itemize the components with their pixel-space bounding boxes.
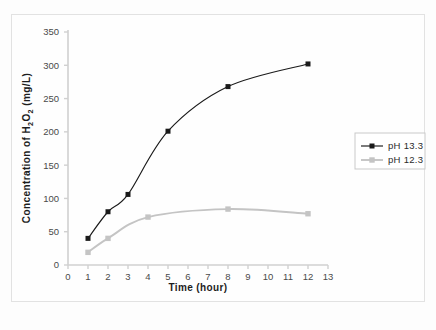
y-tick-label: 250 <box>43 93 59 104</box>
y-tick-label: 100 <box>43 193 59 204</box>
y-tick-label: 150 <box>43 160 59 171</box>
data-point <box>105 236 110 241</box>
data-point <box>145 214 150 219</box>
x-tick-label: 6 <box>185 271 190 282</box>
data-point <box>126 192 131 197</box>
data-point <box>106 209 111 214</box>
x-tick-label: 7 <box>205 271 210 282</box>
y-tick-label: 0 <box>54 259 59 270</box>
x-tick-label: 0 <box>65 271 70 282</box>
data-point <box>166 129 171 134</box>
svg-text:Concentration of H2O2 (mg/L): Concentration of H2O2 (mg/L) <box>21 73 35 223</box>
figure-caption-cropped <box>18 318 248 328</box>
line-chart: 050100150200250300350 012345678910111213… <box>0 0 436 330</box>
data-point <box>225 206 230 211</box>
legend-marker-swatch <box>370 144 375 149</box>
x-tick-label: 5 <box>165 271 170 282</box>
data-point <box>86 236 91 241</box>
data-point <box>226 84 231 89</box>
x-tick-label: 4 <box>145 271 150 282</box>
series-line <box>88 209 308 252</box>
series-1 <box>86 61 311 240</box>
legend-item-label: pH 13.3 <box>388 140 423 151</box>
chart-figure: 050100150200250300350 012345678910111213… <box>0 0 436 330</box>
data-point <box>306 61 311 66</box>
x-tick-label: 2 <box>105 271 110 282</box>
x-tick-label: 1 <box>85 271 90 282</box>
y-tick-label: 200 <box>43 126 59 137</box>
series-2 <box>85 206 310 255</box>
chart-legend[interactable]: pH 13.3pH 12.3 <box>355 133 425 169</box>
x-tick-label: 10 <box>263 271 274 282</box>
x-tick-label: 11 <box>283 271 293 282</box>
y-axis-title: Concentration of H2O2 (mg/L) <box>21 73 35 223</box>
data-point <box>305 211 310 216</box>
page-background: 050100150200250300350 012345678910111213… <box>0 0 436 330</box>
series-line <box>88 64 308 238</box>
x-tick-label: 12 <box>303 271 314 282</box>
x-tick-label: 9 <box>245 271 250 282</box>
y-tick-label: 50 <box>48 226 59 237</box>
y-tick-label: 350 <box>43 26 59 37</box>
legend-item-label: pH 12.3 <box>388 154 423 165</box>
data-series-group <box>85 61 310 255</box>
data-point <box>85 250 90 255</box>
x-axis: 012345678910111213 <box>65 265 333 282</box>
y-axis: 050100150200250300350 <box>43 26 68 270</box>
legend-marker-swatch <box>369 157 374 162</box>
x-tick-label: 8 <box>225 271 230 282</box>
x-tick-label: 13 <box>323 271 334 282</box>
y-tick-label: 300 <box>43 60 59 71</box>
x-axis-title: Time (hour) <box>168 282 227 293</box>
x-tick-label: 3 <box>125 271 130 282</box>
